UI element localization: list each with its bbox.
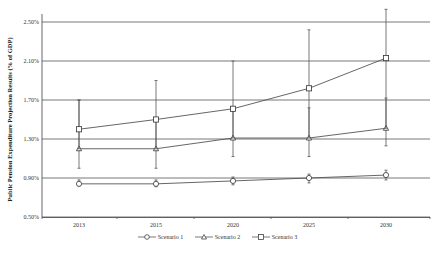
y-tick-label: 2.50%	[24, 19, 40, 25]
legend-label: Scenario 3	[272, 234, 298, 240]
legend-label: Scenario 2	[215, 234, 241, 240]
legend-item-scenario-2: Scenario 2	[195, 233, 241, 241]
y-tick-label: 0.50%	[24, 214, 40, 220]
series-scenario-1	[76, 170, 388, 187]
circle-marker-icon	[138, 233, 156, 241]
data-point	[230, 178, 235, 183]
y-tick-label: 1.30%	[24, 136, 40, 142]
x-tick-label: 2015	[150, 222, 162, 228]
x-tick-label: 2030	[380, 222, 392, 228]
y-tick-label: 2.10%	[24, 58, 40, 64]
legend: Scenario 1 Scenario 2 Scenario 3	[0, 233, 435, 242]
x-tick-label: 2020	[227, 222, 239, 228]
data-point	[383, 172, 388, 177]
x-tick-label: 2025	[303, 222, 315, 228]
legend-item-scenario-3: Scenario 3	[252, 233, 298, 241]
legend-item-scenario-1: Scenario 1	[138, 233, 184, 241]
x-tick-label: 2013	[73, 222, 85, 228]
y-tick-label: 1.70%	[24, 97, 40, 103]
data-point	[76, 181, 81, 186]
chart-canvas: 0.50%0.90%1.30%1.70%2.10%2.50%2013201520…	[0, 0, 435, 254]
series-line	[79, 58, 386, 129]
data-point	[383, 55, 388, 60]
data-point	[153, 181, 158, 186]
data-point	[230, 106, 235, 111]
y-tick-label: 0.90%	[24, 175, 40, 181]
y-axis-title: Public Pension Expenditure Projection Re…	[6, 37, 14, 201]
triangle-marker-icon	[195, 233, 213, 241]
data-point	[76, 127, 81, 132]
data-point	[306, 86, 311, 91]
data-point	[306, 175, 311, 180]
square-marker-icon	[252, 233, 270, 241]
series-scenario-3	[76, 9, 388, 148]
legend-label: Scenario 1	[158, 234, 184, 240]
data-point	[153, 117, 158, 122]
